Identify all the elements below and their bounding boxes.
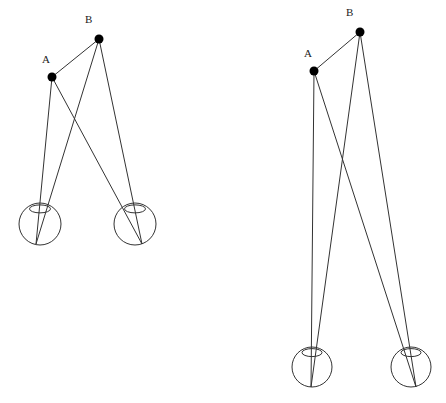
a-b-connector xyxy=(52,39,99,77)
a-b-connector xyxy=(314,32,360,71)
binocular-diagram xyxy=(0,0,446,403)
ray-b-right xyxy=(360,32,416,387)
left-eye-icon xyxy=(19,203,61,245)
far-diagram xyxy=(292,28,431,388)
point-a xyxy=(48,73,57,82)
ray-a-left xyxy=(311,71,314,387)
ray-a-right xyxy=(52,77,142,244)
label-a-near: A xyxy=(42,53,50,65)
ray-a-right xyxy=(314,71,416,387)
point-a xyxy=(310,67,319,76)
diagram-canvas: A B A B xyxy=(0,0,446,403)
label-a-far: A xyxy=(304,47,312,59)
point-b xyxy=(356,28,365,37)
point-b xyxy=(95,35,104,44)
label-b-far: B xyxy=(346,6,353,18)
lens-icon xyxy=(302,349,322,357)
near-diagram xyxy=(19,35,156,246)
label-b-near: B xyxy=(85,13,92,25)
